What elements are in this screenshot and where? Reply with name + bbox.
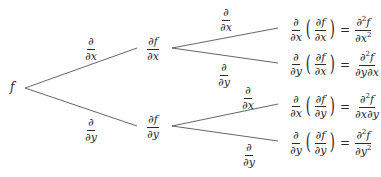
op-den: ∂x xyxy=(289,107,303,120)
result-d2f-dxdy: ∂∂x ( ∂f∂y ) = ∂2f ∂x∂y xyxy=(288,93,381,120)
result-num: ∂2f xyxy=(359,51,375,66)
result-d2f-dx2: ∂∂x ( ∂f∂x ) = ∂2f ∂x2 xyxy=(288,16,373,44)
op-num: ∂ xyxy=(292,130,300,144)
edge-label-num: ∂ xyxy=(87,36,95,50)
edge-label-den: ∂x xyxy=(241,99,255,112)
node-num: ∂f xyxy=(147,36,159,50)
paren-close: ) xyxy=(330,18,335,40)
paren-open: ( xyxy=(306,18,311,40)
node-df-dy: ∂f∂y xyxy=(145,114,161,140)
inner-num: ∂f xyxy=(315,130,327,144)
edge-label-den: ∂y xyxy=(217,76,231,89)
result-d2f-dy2: ∂∂y ( ∂f∂y ) = ∂2f ∂y2 xyxy=(288,129,373,157)
op-den: ∂x xyxy=(289,31,303,44)
node-num: ∂f xyxy=(147,114,159,128)
inner-den: ∂x xyxy=(314,65,328,78)
edge-label-num: ∂ xyxy=(245,142,253,156)
op-num: ∂ xyxy=(292,17,300,31)
edge-label-den: ∂y xyxy=(242,156,256,169)
node-den: ∂x xyxy=(146,50,160,63)
result-den: ∂x2 xyxy=(354,31,372,45)
paren-open: ( xyxy=(306,95,311,117)
inner-den: ∂y xyxy=(314,144,328,157)
node-df-dx: ∂f∂x xyxy=(145,36,161,62)
edge-label-num: ∂ xyxy=(222,7,230,21)
inner-num: ∂f xyxy=(315,17,327,31)
edge-f-to-dfdx xyxy=(25,48,137,88)
edge-label-den: ∂x xyxy=(84,50,98,63)
edge-label-d-dx-upper: ∂∂x xyxy=(218,7,234,33)
edge-label-num: ∂ xyxy=(220,62,228,76)
equals-sign: = xyxy=(340,137,350,149)
edge-label-d-dx: ∂∂x xyxy=(83,36,99,62)
edge-label-d-dx-lower: ∂∂x xyxy=(240,85,256,111)
inner-den: ∂x xyxy=(314,31,328,44)
equals-sign: = xyxy=(340,24,350,36)
root-node-f: f xyxy=(10,81,14,93)
edge-dfdy-to-dxy xyxy=(172,104,278,126)
edge-f-to-dfdy xyxy=(25,88,137,126)
op-den: ∂y xyxy=(289,65,303,78)
op-num: ∂ xyxy=(292,52,300,66)
inner-den: ∂y xyxy=(314,107,328,120)
op-den: ∂y xyxy=(289,144,303,157)
edge-label-d-dy-lower: ∂∂y xyxy=(241,142,257,168)
edge-label-num: ∂ xyxy=(244,85,252,99)
result-den: ∂x∂y xyxy=(354,108,380,121)
edge-label-d-dy-upper: ∂∂y xyxy=(216,62,232,88)
root-label: f xyxy=(10,81,14,93)
paren-close: ) xyxy=(330,131,335,153)
paren-open: ( xyxy=(306,53,311,75)
edge-label-den: ∂x xyxy=(219,21,233,34)
result-num: ∂2f xyxy=(355,129,371,144)
edge-label-den: ∂y xyxy=(84,131,98,144)
result-d2f-dydx: ∂∂y ( ∂f∂x ) = ∂2f ∂y∂x xyxy=(288,51,381,78)
result-den: ∂y∂x xyxy=(354,66,380,79)
node-den: ∂y xyxy=(146,128,160,141)
paren-close: ) xyxy=(330,95,335,117)
edge-dfdy-to-dyy xyxy=(172,126,278,141)
inner-num: ∂f xyxy=(315,94,327,108)
paren-open: ( xyxy=(306,131,311,153)
op-num: ∂ xyxy=(292,94,300,108)
result-den: ∂y2 xyxy=(354,144,372,158)
result-num: ∂2f xyxy=(359,93,375,108)
inner-num: ∂f xyxy=(315,52,327,66)
equals-sign: = xyxy=(340,101,350,113)
edge-label-num: ∂ xyxy=(87,117,95,131)
edge-label-d-dy: ∂∂y xyxy=(83,117,99,143)
result-num: ∂2f xyxy=(355,16,371,31)
paren-close: ) xyxy=(330,53,335,75)
equals-sign: = xyxy=(340,59,350,71)
